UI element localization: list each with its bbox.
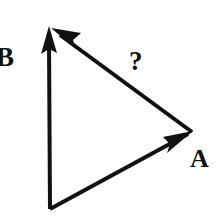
vector-b-shaft xyxy=(49,42,50,209)
unknown-vector-label: ? xyxy=(129,48,143,75)
vector-a-label: A xyxy=(190,146,209,172)
diagram-background xyxy=(0,0,218,216)
vector-b-label: B xyxy=(0,44,14,71)
vector-diagram-figure: B ? A xyxy=(0,0,218,216)
vector-diagram-canvas xyxy=(0,0,218,216)
